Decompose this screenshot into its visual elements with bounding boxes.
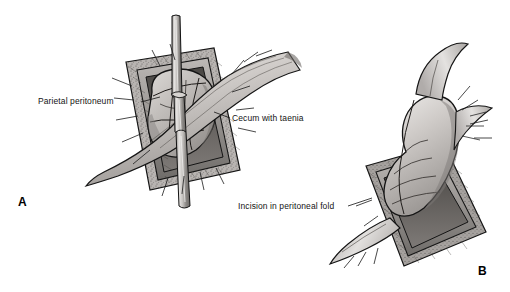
panel-b-artwork [330,43,492,268]
panel-b-peritoneal-fold [454,106,492,150]
label-incision-in-peritoneal-fold: Incision in peritoneal fold [238,201,334,211]
figure-canvas: Parietal peritoneum Cecum with taenia In… [0,0,510,292]
panel-b-proximal-limb [416,43,468,100]
panel-a-letter: A [18,195,27,209]
label-cecum-with-taenia: Cecum with taenia [232,113,304,123]
label-parietal-peritoneum: Parietal peritoneum [38,96,114,106]
panel-a-artwork [86,15,302,208]
panel-b-letter: B [478,264,487,278]
medical-illustration [0,0,510,292]
